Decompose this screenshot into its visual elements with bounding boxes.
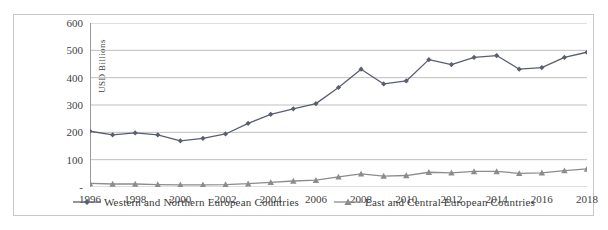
data-point-marker — [200, 136, 205, 141]
y-tick-label: 100 — [67, 154, 84, 166]
diamond-marker-icon — [72, 197, 102, 207]
data-point-marker — [562, 55, 567, 60]
y-tick-label: - — [79, 181, 83, 193]
data-point-marker — [246, 121, 251, 126]
chart-plot-svg — [90, 23, 587, 187]
data-point-marker — [110, 132, 115, 137]
data-point-marker — [155, 132, 160, 137]
data-point-marker — [539, 65, 544, 70]
y-tick-label: 400 — [67, 72, 84, 84]
y-tick-label: 500 — [67, 44, 84, 56]
legend-label: East and Central European Countries — [365, 196, 535, 208]
series-line-0 — [90, 52, 587, 141]
legend-label: Western and Northern European Countries — [104, 196, 299, 208]
chart-legend: Western and Northern European CountriesE… — [14, 196, 593, 208]
data-point-marker — [449, 62, 454, 67]
data-point-marker — [291, 106, 296, 111]
y-tick-label: 600 — [67, 17, 84, 29]
data-point-marker — [90, 129, 93, 134]
data-point-marker — [178, 138, 183, 143]
legend-item[interactable]: East and Central European Countries — [333, 196, 535, 208]
legend-item[interactable]: Western and Northern European Countries — [72, 196, 299, 208]
data-point-marker — [268, 112, 273, 117]
data-point-marker — [471, 55, 476, 60]
data-point-marker — [133, 130, 138, 135]
chart-frame: USD Billions 600500400300200100- 1996199… — [13, 14, 594, 216]
y-tick-label: 200 — [67, 126, 84, 138]
plot-area: USD Billions 600500400300200100- 1996199… — [90, 23, 587, 187]
triangle-marker-icon — [333, 197, 363, 207]
y-tick-label: 300 — [67, 99, 84, 111]
